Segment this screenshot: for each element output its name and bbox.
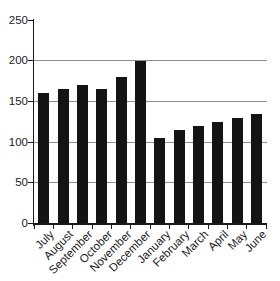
- x-axis-label-june: June: [243, 228, 269, 254]
- bar-may: [232, 118, 243, 225]
- bar-april: [212, 122, 223, 225]
- y-axis-tick-150: [28, 101, 34, 102]
- bar-june: [251, 114, 262, 225]
- x-axis-tick-4: [111, 225, 112, 229]
- y-axis-line: [33, 19, 34, 226]
- x-axis-tick-12: [266, 225, 267, 229]
- x-axis-tick-9: [208, 225, 209, 229]
- x-axis-tick-11: [246, 225, 247, 229]
- bar-august: [58, 89, 69, 224]
- y-axis-tick-50: [28, 182, 34, 183]
- y-axis-label-200: 200: [2, 54, 28, 67]
- gridline-200: [34, 60, 267, 61]
- y-axis-label-250: 250: [2, 14, 28, 27]
- y-axis-label-50: 50: [2, 176, 28, 189]
- bar-october: [96, 89, 107, 224]
- bar-november: [116, 77, 127, 225]
- y-axis-tick-200: [28, 60, 34, 61]
- gridline-150: [34, 101, 267, 102]
- x-axis-tick-0: [34, 225, 35, 229]
- bar-january: [154, 138, 165, 224]
- y-axis-label-100: 100: [2, 136, 28, 149]
- bar-march: [193, 126, 204, 225]
- x-axis-tick-10: [227, 225, 228, 229]
- bar-september: [77, 85, 88, 224]
- plot-area: 050100150200250JulyAugustSeptemberOctobe…: [0, 0, 280, 281]
- bar-chart: 050100150200250JulyAugustSeptemberOctobe…: [0, 0, 280, 281]
- y-axis-label-150: 150: [2, 95, 28, 108]
- y-axis-tick-250: [28, 20, 34, 21]
- y-axis-tick-100: [28, 142, 34, 143]
- x-axis-tick-5: [130, 225, 131, 229]
- x-axis-tick-2: [72, 225, 73, 229]
- x-axis-tick-3: [92, 225, 93, 229]
- bar-december: [135, 61, 146, 225]
- bar-july: [38, 93, 49, 224]
- bar-february: [174, 130, 185, 225]
- x-axis-tick-6: [150, 225, 151, 229]
- x-axis-tick-1: [53, 225, 54, 229]
- x-axis-tick-8: [188, 225, 189, 229]
- y-axis-label-0: 0: [2, 217, 28, 230]
- x-axis-tick-7: [169, 225, 170, 229]
